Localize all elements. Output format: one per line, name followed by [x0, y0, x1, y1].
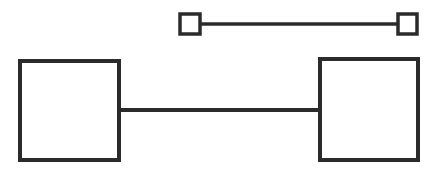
small-left-square	[180, 14, 200, 34]
small-right-square	[398, 14, 417, 34]
large-connector-group	[20, 59, 418, 160]
large-left-box	[20, 61, 119, 160]
large-right-box	[320, 59, 418, 160]
small-connector-group	[180, 14, 417, 34]
diagram-canvas	[0, 0, 433, 176]
